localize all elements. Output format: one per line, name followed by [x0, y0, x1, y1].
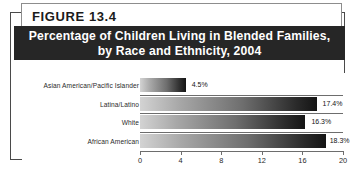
- bar: [140, 78, 186, 92]
- bar-value-label: 4.5%: [189, 78, 208, 92]
- x-axis-tick-label: 8: [219, 156, 223, 165]
- bar: [140, 134, 326, 148]
- x-axis-tick: [181, 151, 182, 155]
- figure-title-line-1: Percentage of Children Living in Blended…: [29, 29, 330, 44]
- bar-chart: Asian American/Pacific Islander 4.5% Lat…: [22, 73, 355, 172]
- bar-value-label: 18.3%: [327, 134, 350, 148]
- figure-title-banner: Percentage of Children Living in Blended…: [14, 26, 345, 60]
- x-axis-tick: [140, 151, 141, 155]
- figure-screenshot: Asian American/Pacific Islander 4.5% Lat…: [0, 0, 355, 173]
- bar-track: [140, 78, 343, 92]
- x-axis-tick-label: 0: [138, 156, 142, 165]
- table-row: White 16.3%: [22, 114, 355, 133]
- table-row: Latina/Latino 17.4%: [22, 96, 355, 115]
- x-axis-tick-label: 4: [179, 156, 183, 165]
- category-label: White: [122, 114, 139, 133]
- table-row: Asian American/Pacific Islander 4.5%: [22, 77, 355, 96]
- x-axis-line: [140, 151, 343, 152]
- bar: [140, 97, 317, 111]
- x-axis-tick: [262, 151, 263, 155]
- bar-track: [140, 134, 343, 148]
- chart-plot-area: Asian American/Pacific Islander 4.5% Lat…: [22, 73, 355, 172]
- x-axis-tick-label: 20: [339, 156, 347, 165]
- category-label: Latina/Latino: [100, 96, 139, 115]
- x-axis-tick: [221, 151, 222, 155]
- bar-track: [140, 97, 343, 111]
- bar-value-label: 17.4%: [320, 97, 343, 111]
- figure-title-line-2: by Race and Ethnicity, 2004: [98, 44, 262, 59]
- figure-number-label: FIGURE 13.4: [32, 9, 117, 24]
- table-row: African American 18.3%: [22, 133, 355, 152]
- x-axis: 0 4 8 12 16 20: [140, 151, 343, 172]
- x-axis-tick: [302, 151, 303, 155]
- x-axis-tick: [343, 151, 344, 155]
- bar: [140, 115, 305, 129]
- category-label: Asian American/Pacific Islander: [44, 77, 139, 96]
- x-axis-tick-label: 16: [298, 156, 306, 165]
- x-axis-tick-label: 12: [258, 156, 266, 165]
- category-label: African American: [88, 133, 139, 152]
- bar-rows: Asian American/Pacific Islander 4.5% Lat…: [22, 77, 355, 151]
- bar-value-label: 16.3%: [308, 115, 331, 129]
